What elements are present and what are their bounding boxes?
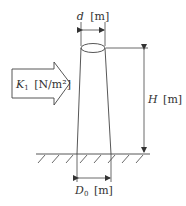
top-diameter-dimension: d [m] bbox=[77, 10, 110, 46]
top-diameter-label: d [m] bbox=[77, 10, 110, 23]
wind-pressure-label: K1 [N/m²] bbox=[15, 78, 71, 93]
height-label: H [m] bbox=[147, 93, 182, 106]
base-diameter-label: D0 [m] bbox=[74, 184, 113, 199]
ground bbox=[36, 154, 150, 163]
chimney-diagram: d [m] K1 [N/m²] H [m] bbox=[0, 0, 186, 206]
height-dimension: H [m] bbox=[106, 48, 182, 152]
chimney-body bbox=[77, 44, 111, 155]
wind-pressure-arrow: K1 [N/m²] bbox=[12, 62, 71, 105]
base-diameter-dimension: D0 [m] bbox=[74, 154, 113, 199]
